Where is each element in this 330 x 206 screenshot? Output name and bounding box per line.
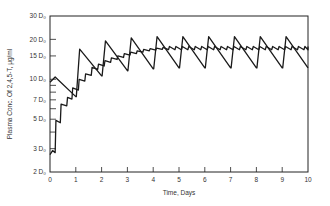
x-tick-label: 9 bbox=[280, 176, 284, 183]
y-tick-label: 20 D₀ bbox=[30, 36, 47, 43]
x-tick-label: 3 bbox=[126, 176, 130, 183]
plot-frame bbox=[50, 16, 308, 172]
series-frequent-dosing-line bbox=[50, 46, 308, 154]
y-tick-label: 30 D₀ bbox=[30, 12, 47, 19]
x-axis-ticks: 012345678910 bbox=[48, 167, 312, 183]
y-axis-title: Plasma Conc. Of 2,4,5-T, μg/ml bbox=[6, 48, 14, 139]
x-tick-label: 6 bbox=[203, 176, 207, 183]
x-tick-label: 7 bbox=[229, 176, 233, 183]
y-tick-label: 2 D₀ bbox=[33, 168, 46, 175]
series-once-daily-line bbox=[50, 37, 308, 97]
x-tick-label: 1 bbox=[74, 176, 78, 183]
x-tick-label: 0 bbox=[48, 176, 52, 183]
x-tick-label: 2 bbox=[100, 176, 104, 183]
x-tick-label: 10 bbox=[304, 176, 312, 183]
y-tick-label: 3 D₀ bbox=[33, 145, 46, 152]
y-tick-label: 15 D₀ bbox=[30, 52, 47, 59]
x-tick-label: 4 bbox=[151, 176, 155, 183]
x-tick-label: 8 bbox=[255, 176, 259, 183]
data-curves bbox=[50, 37, 308, 155]
plasma-concentration-chart: 2 D₀3 D₀5 D₀7 D₀10 D₀15 D₀20 D₀30 D₀ 012… bbox=[0, 0, 330, 206]
y-tick-label: 5 D₀ bbox=[33, 115, 46, 122]
x-axis-title: Time, Days bbox=[163, 189, 196, 197]
y-tick-label: 7 D₀ bbox=[33, 96, 46, 103]
x-tick-label: 5 bbox=[177, 176, 181, 183]
y-tick-label: 10 D₀ bbox=[30, 75, 47, 82]
